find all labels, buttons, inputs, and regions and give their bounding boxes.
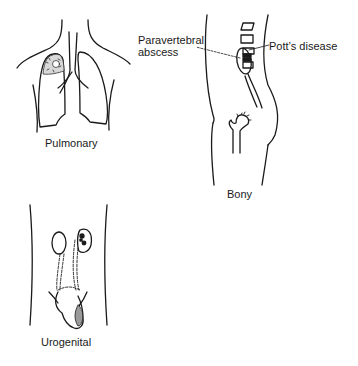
paravertebral-abscess-label: Paravertebral abscess bbox=[138, 34, 204, 58]
pulmonary-illustration bbox=[17, 20, 130, 132]
bony-illustration bbox=[196, 15, 278, 185]
urogenital-illustration bbox=[30, 205, 107, 328]
paravertebral-label-line1: Paravertebral bbox=[138, 34, 204, 46]
pulmonary-caption: Pulmonary bbox=[45, 137, 98, 149]
kidney-lesions bbox=[80, 234, 86, 245]
paravertebral-label-line2: abscess bbox=[138, 46, 204, 58]
potts-disease-label: Pott’s disease bbox=[269, 40, 337, 52]
bony-caption: Bony bbox=[227, 188, 252, 200]
pulmonary-lesion bbox=[43, 54, 64, 74]
urogenital-caption: Urogenital bbox=[41, 336, 91, 348]
